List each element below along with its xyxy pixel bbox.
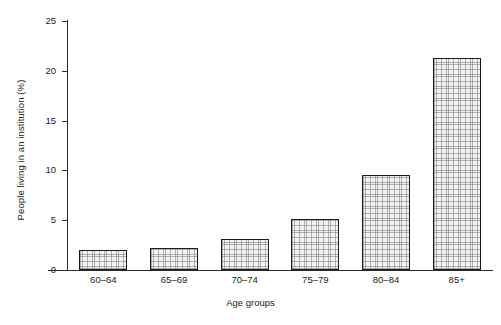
y-axis-tick-label: 0	[22, 265, 56, 275]
y-axis-tick-label: 15	[22, 116, 56, 126]
y-axis-title: People living in an institution (%)	[10, 5, 32, 295]
x-axis-tick-label: 60–64	[63, 275, 143, 285]
plot-area	[68, 21, 492, 270]
y-axis-tick-label-wrap: 5	[22, 215, 56, 225]
x-axis-line	[48, 270, 493, 271]
y-axis-tick-label-wrap: 20	[22, 66, 56, 76]
bar	[362, 175, 410, 270]
bar	[291, 219, 339, 270]
x-axis-title: Age groups	[0, 297, 501, 308]
x-axis-tick-label: 70–74	[205, 275, 285, 285]
y-axis-tick-label: 20	[22, 66, 56, 76]
y-axis-tick-label-wrap: 10	[22, 165, 56, 175]
y-axis-tick-label: 10	[22, 165, 56, 175]
y-axis-tick-label: 25	[22, 16, 56, 26]
y-axis-tick-label: 5	[22, 215, 56, 225]
bar	[79, 250, 127, 270]
bar	[221, 239, 269, 270]
y-axis-tick-label-wrap: 15	[22, 116, 56, 126]
x-axis-tick-label: 80–84	[346, 275, 426, 285]
bar-chart: People living in an institution (%) 0510…	[0, 0, 501, 325]
bar	[433, 58, 481, 270]
y-axis-tick-label-wrap: 0	[22, 265, 56, 275]
y-axis-tick	[62, 270, 68, 271]
bar	[150, 248, 198, 270]
x-axis-tick-label: 85+	[417, 275, 497, 285]
y-axis-tick-label-wrap: 25	[22, 16, 56, 26]
x-axis-tick-label: 75–79	[275, 275, 355, 285]
x-axis-tick-label: 65–69	[134, 275, 214, 285]
